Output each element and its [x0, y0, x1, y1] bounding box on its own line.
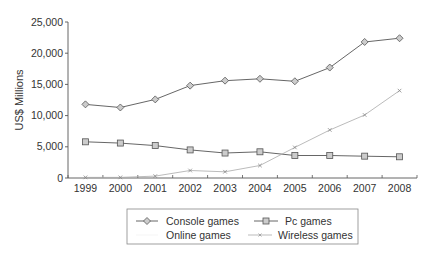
diamond-marker-icon: [256, 75, 263, 82]
y-axis-title: US$ Millions: [13, 69, 25, 131]
diamond-marker-icon: [396, 35, 403, 42]
x-tick-label: 2004: [248, 182, 272, 194]
legend-label: Wireless games: [278, 229, 353, 241]
legend-label: Pc games: [285, 215, 332, 227]
square-marker-icon: [257, 149, 263, 155]
x-tick-label: 1999: [74, 182, 98, 194]
x-tick-label: 2001: [144, 182, 168, 194]
y-tick-label: 25,000: [31, 16, 63, 28]
x-tick-label: 2008: [388, 182, 412, 194]
line-chart: 05,00010,00015,00020,00025,000 199920002…: [0, 0, 428, 258]
x-tick-label: 2007: [353, 182, 377, 194]
square-marker-icon: [292, 153, 298, 159]
diamond-marker-icon: [291, 78, 298, 85]
square-marker-icon: [117, 140, 123, 146]
square-marker-icon: [263, 218, 269, 224]
square-marker-icon: [222, 150, 228, 156]
diamond-marker-icon: [361, 38, 368, 45]
x-tick-label: 2005: [283, 182, 307, 194]
x-tick-label: 2002: [178, 182, 202, 194]
diamond-marker-icon: [222, 77, 229, 84]
square-marker-icon: [152, 143, 158, 149]
y-tick-label: 10,000: [31, 109, 63, 121]
square-marker-icon: [82, 139, 88, 145]
x-marker-icon: [328, 128, 332, 132]
square-marker-icon: [187, 147, 193, 153]
legend-label: Console games: [166, 215, 239, 227]
chart-series: [82, 35, 403, 179]
x-tick-label: 2000: [109, 182, 133, 194]
square-marker-icon: [362, 153, 368, 159]
diamond-marker-icon: [187, 82, 194, 89]
legend: Console games Pc games Online games Wire…: [127, 209, 358, 244]
x-tick-label: 2006: [318, 182, 342, 194]
y-tick-label: 20,000: [31, 47, 63, 59]
y-tick-label: 0: [57, 172, 63, 184]
x-marker-icon: [293, 146, 297, 150]
y-tick-label: 15,000: [31, 78, 63, 90]
diamond-marker-icon: [117, 104, 124, 111]
diamond-marker-icon: [152, 96, 159, 103]
square-marker-icon: [397, 154, 403, 160]
series-wireless-games: [84, 89, 402, 179]
y-tick-label: 5,000: [37, 140, 63, 152]
x-marker-icon: [363, 113, 367, 117]
legend-label: Online games: [166, 229, 231, 241]
diamond-marker-icon: [82, 101, 89, 108]
x-tick-label: 2003: [213, 182, 237, 194]
series-console-games: [82, 35, 403, 111]
square-marker-icon: [327, 153, 333, 159]
x-marker-icon: [398, 89, 402, 93]
series-pc-games: [82, 139, 402, 160]
y-axis-ticks: 05,00010,00015,00020,00025,000: [31, 16, 68, 184]
diamond-marker-icon: [326, 64, 333, 71]
